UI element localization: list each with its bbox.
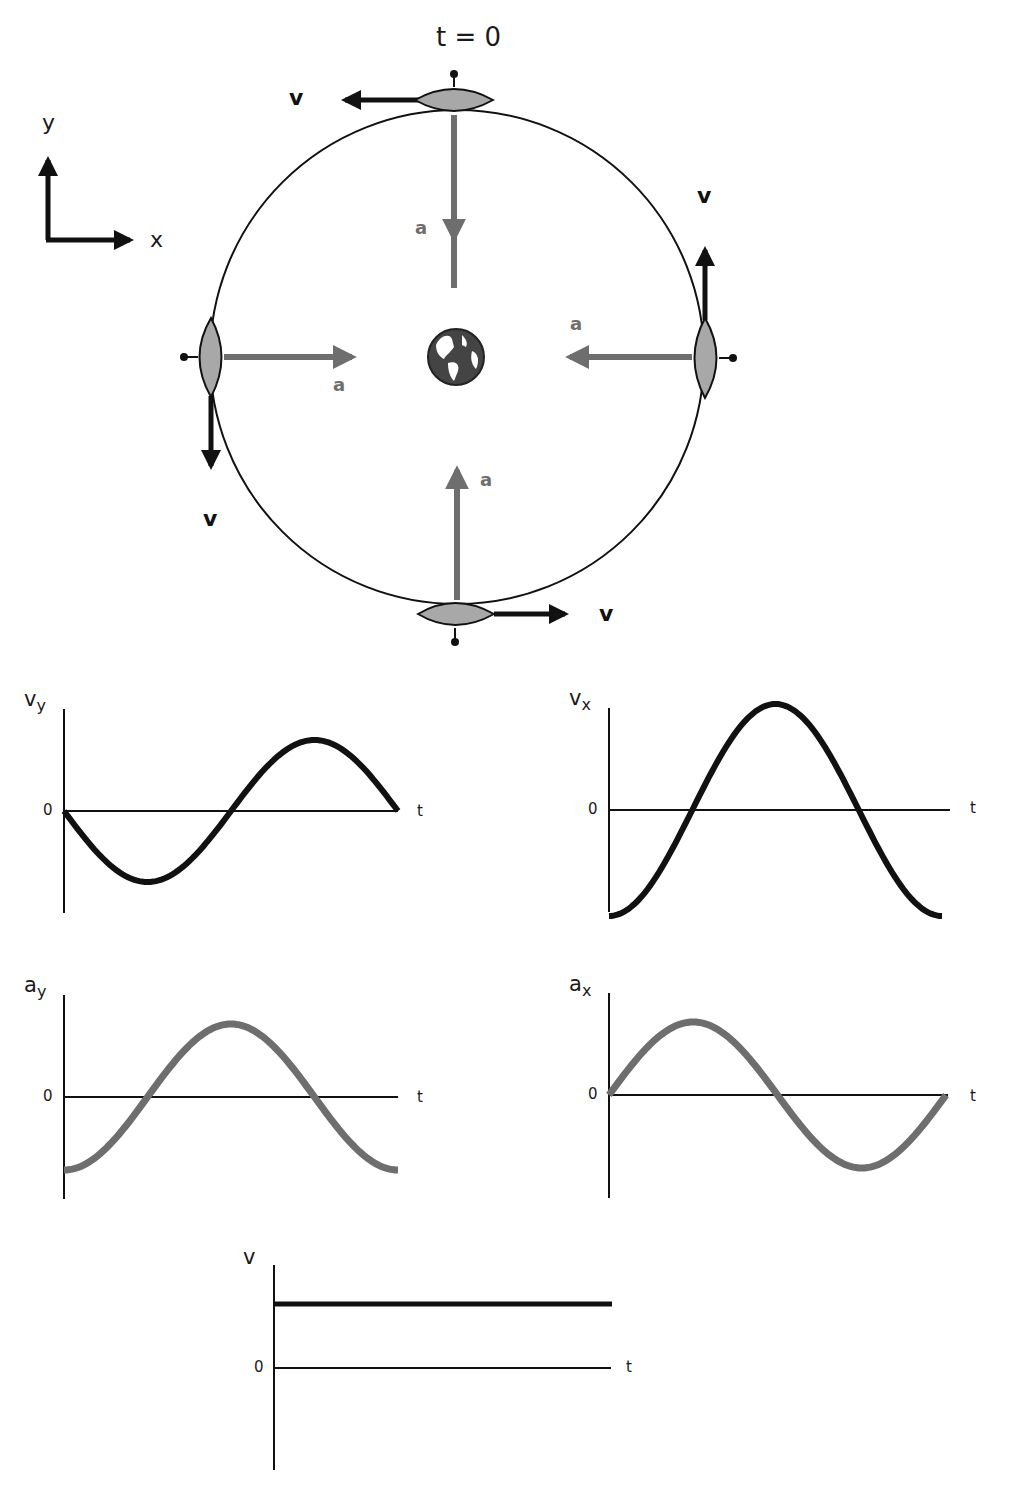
accel-label-left: a — [333, 376, 345, 394]
x-axis-label: x — [150, 229, 163, 251]
velocity-label-top: v — [289, 87, 303, 109]
graph-vy-tlabel: t — [417, 804, 423, 819]
graph-vx-ylabel: vx — [569, 688, 591, 713]
graph-ax-zero: 0 — [588, 1087, 598, 1102]
accel-label-right: a — [570, 315, 582, 333]
velocity-label-left: v — [203, 508, 217, 530]
graph-v-ylabel: v — [243, 1247, 255, 1268]
graph-ax-tlabel: t — [970, 1089, 976, 1104]
satellite-left — [180, 318, 352, 466]
accel-label-bottom: a — [480, 471, 492, 489]
graph-ay — [64, 995, 398, 1199]
globe-icon — [428, 329, 484, 385]
graph-ay-ylabel: ay — [24, 975, 46, 1000]
coordinate-axes — [46, 160, 130, 240]
graph-v-zero: 0 — [254, 1360, 264, 1375]
velocity-label-bottom: v — [599, 603, 613, 625]
graph-vx — [609, 704, 950, 916]
satellite-top — [345, 70, 493, 288]
graph-vy — [64, 709, 398, 913]
satellite-right — [570, 250, 737, 398]
graph-v-tlabel: t — [626, 1360, 632, 1375]
circular-orbit-diagram — [0, 0, 1013, 1492]
y-axis-label: y — [42, 112, 55, 134]
graph-ay-tlabel: t — [417, 1090, 423, 1105]
graph-vx-zero: 0 — [588, 802, 598, 817]
graph-vy-zero: 0 — [43, 803, 53, 818]
diagram-title: t = 0 — [436, 24, 501, 50]
graph-vx-tlabel: t — [970, 801, 976, 816]
graph-ax — [609, 993, 948, 1198]
graph-ay-zero: 0 — [43, 1089, 53, 1104]
graph-ax-ylabel: ax — [569, 974, 591, 999]
velocity-label-right: v — [697, 185, 711, 207]
accel-label-top: a — [415, 219, 427, 237]
graph-vy-ylabel: vy — [24, 689, 46, 714]
satellite-bottom — [418, 470, 565, 646]
graph-v — [274, 1265, 612, 1470]
